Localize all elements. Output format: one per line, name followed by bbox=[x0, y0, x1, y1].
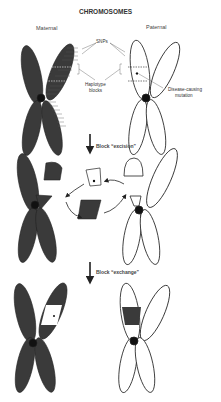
excised-maternal-block bbox=[78, 200, 101, 219]
paternal-chromosome-2 bbox=[119, 145, 183, 266]
exchange-step-label: Block “exchange” bbox=[96, 270, 139, 275]
maternal-chromosome-3 bbox=[10, 280, 73, 394]
maternal-header: Maternal bbox=[36, 26, 57, 32]
haplotype-label-2: blocks bbox=[89, 89, 102, 94]
swapped-maternal-block bbox=[122, 307, 141, 325]
paternal-chromosome-3 bbox=[115, 282, 175, 394]
chromosome-diagram bbox=[0, 0, 221, 402]
swapped-paternal-block bbox=[41, 305, 62, 325]
excised-paternal-block bbox=[86, 168, 101, 186]
maternal-chromosome-1 bbox=[17, 41, 80, 157]
mutation-label-2: mutation bbox=[175, 94, 193, 99]
haplotype-label-1: Haplotype bbox=[85, 83, 106, 88]
diagram-title: CHROMOSOMES bbox=[79, 9, 132, 16]
paternal-header: Paternal bbox=[146, 25, 167, 31]
mutation-label-1: Disease-causing bbox=[168, 88, 202, 93]
snps-label: SNPs bbox=[96, 40, 108, 45]
excision-step-label: Block “excision” bbox=[96, 144, 136, 149]
maternal-chromosome-2 bbox=[13, 152, 62, 264]
